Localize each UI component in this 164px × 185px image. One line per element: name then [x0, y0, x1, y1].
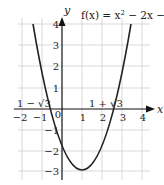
svg-text:2: 2 [53, 61, 59, 72]
svg-text:−1: −1 [33, 112, 48, 123]
svg-text:1: 1 [80, 112, 86, 123]
svg-text:−2: −2 [13, 112, 28, 123]
function-title: f(x) = x2 − 2x − 2 [81, 9, 164, 21]
svg-text:3: 3 [53, 40, 59, 51]
x-tick-labels: −2 −1 1 2 3 4 0 [13, 109, 147, 123]
root-left-annotation: 1 − √3 [17, 98, 51, 109]
parabola-chart: x y f(x) = x2 − 2x − 2 4 3 2 1 −1 −2 −3 … [0, 0, 164, 185]
x-axis-label: x [157, 103, 164, 116]
svg-text:1: 1 [53, 83, 59, 94]
y-axis-arrow-icon [59, 17, 66, 26]
svg-text:2: 2 [100, 112, 106, 123]
y-axis-label: y [63, 4, 71, 17]
svg-text:−3: −3 [44, 166, 59, 177]
svg-text:−2: −2 [44, 146, 59, 157]
origin-label: 0 [55, 109, 61, 120]
root-right-annotation: 1 + √3 [89, 98, 123, 109]
svg-text:4: 4 [53, 19, 59, 30]
svg-text:−1: −1 [44, 125, 59, 136]
x-axis-arrow-icon [146, 106, 155, 113]
svg-text:3: 3 [120, 112, 126, 123]
svg-text:4: 4 [140, 112, 146, 123]
